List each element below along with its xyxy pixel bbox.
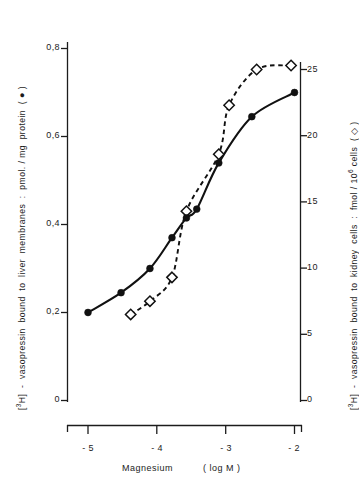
liver-data-point-filled-circle	[291, 89, 298, 96]
liver-data-point-filled-circle	[169, 234, 176, 241]
kidney-data-point-open-diamond	[167, 272, 177, 282]
kidney-series-curve	[131, 65, 291, 314]
kidney-data-point-open-diamond	[224, 100, 234, 110]
liver-curve-path	[88, 93, 295, 313]
kidney-data-point-open-diamond	[286, 60, 296, 70]
kidney-curve-path	[131, 65, 291, 314]
liver-data-point-filled-circle	[118, 289, 125, 296]
liver-data-point-filled-circle	[85, 309, 92, 316]
liver-data-point-filled-circle	[147, 265, 154, 272]
kidney-data-point-open-diamond	[251, 64, 261, 74]
liver-series-curve	[88, 93, 295, 313]
kidney-data-point-open-diamond	[125, 309, 135, 319]
liver-data-point-filled-circle	[183, 215, 190, 222]
x-axis-ticks	[88, 425, 295, 434]
liver-data-point-filled-circle	[215, 160, 222, 167]
liver-series-markers	[85, 89, 298, 316]
axis-lines	[67, 42, 302, 432]
liver-data-point-filled-circle	[193, 206, 200, 213]
liver-data-point-filled-circle	[248, 113, 255, 120]
kidney-series-markers	[125, 60, 296, 319]
